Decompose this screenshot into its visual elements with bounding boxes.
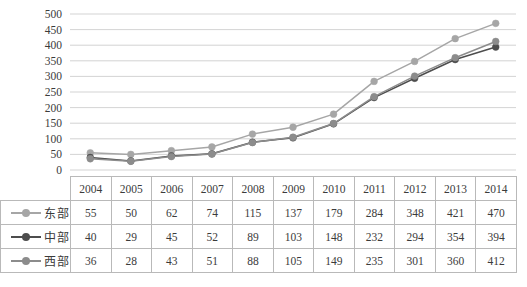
line-chart-plot-area: 500450400350300250200150100500 <box>0 0 527 180</box>
series-west <box>87 38 499 165</box>
data-point-marker <box>492 38 499 45</box>
data-point-marker <box>371 78 378 85</box>
legend-series-label: 中部 <box>44 228 70 245</box>
legend-series-marker-icon <box>11 256 41 266</box>
series-line <box>90 47 495 161</box>
chart-with-data-table: 500450400350300250200150100500 200420052… <box>0 0 527 287</box>
table-value-cell: 55 <box>71 201 112 225</box>
y-gridlines-group: 500450400350300250200150100500 <box>45 8 516 176</box>
table-value-cell: 394 <box>476 225 517 249</box>
table-value-cell: 29 <box>111 225 152 249</box>
table-value-cell: 235 <box>354 249 395 273</box>
table-value-cell: 421 <box>435 201 476 225</box>
table-value-cell: 294 <box>395 225 436 249</box>
table-value-cell: 284 <box>354 201 395 225</box>
y-axis-tick-label: 100 <box>45 133 63 145</box>
table-value-cell: 40 <box>71 225 112 249</box>
data-point-marker <box>371 93 378 100</box>
y-axis-tick-label: 150 <box>45 117 63 129</box>
table-header-spacer <box>1 177 71 201</box>
series-central <box>87 44 499 165</box>
legend-entry: 西部 <box>1 252 70 269</box>
chart-svg: 500450400350300250200150100500 <box>0 0 527 180</box>
table-year-header: 2014 <box>476 177 517 201</box>
table-row: 东部55506274115137179284348421470 <box>1 201 517 225</box>
table-value-cell: 88 <box>233 249 274 273</box>
chart-data-table: 2004200520062007200820092010201120122013… <box>0 176 517 273</box>
table-row: 西部3628435188105149235301360412 <box>1 249 517 273</box>
table-value-cell: 62 <box>152 201 193 225</box>
y-axis-tick-label: 250 <box>45 86 63 98</box>
data-point-marker <box>209 144 216 151</box>
legend-series-label: 东部 <box>44 204 70 221</box>
table-value-cell: 301 <box>395 249 436 273</box>
table-value-cell: 51 <box>192 249 233 273</box>
data-point-marker <box>87 155 94 162</box>
legend-series-marker-icon <box>11 232 41 242</box>
table-value-cell: 89 <box>233 225 274 249</box>
table-value-cell: 360 <box>435 249 476 273</box>
table-year-header: 2006 <box>152 177 193 201</box>
table-year-header: 2013 <box>435 177 476 201</box>
y-axis-tick-label: 350 <box>45 55 63 67</box>
data-point-marker <box>249 139 256 146</box>
legend-cell-central: 中部 <box>1 225 71 249</box>
y-axis-tick-label: 300 <box>45 70 63 82</box>
table-value-cell: 179 <box>314 201 355 225</box>
table-value-cell: 137 <box>273 201 314 225</box>
y-axis-tick-label: 50 <box>51 148 63 160</box>
data-point-marker <box>452 35 459 42</box>
table-value-cell: 50 <box>111 201 152 225</box>
table-year-header: 2010 <box>314 177 355 201</box>
table-value-cell: 348 <box>395 201 436 225</box>
data-point-marker <box>127 158 134 165</box>
data-point-marker <box>209 151 216 158</box>
y-axis-tick-label: 0 <box>56 164 62 176</box>
table-value-cell: 412 <box>476 249 517 273</box>
table-value-cell: 52 <box>192 225 233 249</box>
series-line <box>90 41 495 161</box>
table-value-cell: 105 <box>273 249 314 273</box>
table-year-header: 2007 <box>192 177 233 201</box>
y-axis-tick-label: 400 <box>45 39 63 51</box>
table-header-row: 2004200520062007200820092010201120122013… <box>1 177 517 201</box>
data-point-marker <box>492 20 499 27</box>
table-year-header: 2005 <box>111 177 152 201</box>
legend-series-marker-icon <box>11 208 41 218</box>
legend-dot-icon <box>22 257 30 265</box>
chart-data-table-container: 2004200520062007200820092010201120122013… <box>0 176 527 273</box>
table-value-cell: 115 <box>233 201 274 225</box>
table-year-header: 2011 <box>354 177 395 201</box>
table-value-cell: 232 <box>354 225 395 249</box>
legend-entry: 中部 <box>1 228 70 245</box>
data-point-marker <box>452 54 459 61</box>
data-point-marker <box>249 131 256 138</box>
legend-entry: 东部 <box>1 204 70 221</box>
legend-dot-icon <box>22 209 30 217</box>
data-point-marker <box>330 120 337 127</box>
data-point-marker <box>168 153 175 160</box>
table-year-header: 2012 <box>395 177 436 201</box>
table-body: 东部55506274115137179284348421470中部4029455… <box>1 201 517 273</box>
legend-series-label: 西部 <box>44 252 70 269</box>
table-value-cell: 149 <box>314 249 355 273</box>
data-point-marker <box>330 111 337 118</box>
table-value-cell: 470 <box>476 201 517 225</box>
y-axis-tick-label: 200 <box>45 102 63 114</box>
table-value-cell: 148 <box>314 225 355 249</box>
legend-cell-west: 西部 <box>1 249 71 273</box>
table-value-cell: 103 <box>273 225 314 249</box>
data-point-marker <box>411 58 418 65</box>
y-axis-tick-label: 450 <box>45 24 63 36</box>
table-value-cell: 74 <box>192 201 233 225</box>
data-point-marker <box>290 134 297 141</box>
y-axis-tick-label: 500 <box>45 8 63 20</box>
table-value-cell: 28 <box>111 249 152 273</box>
table-year-header: 2009 <box>273 177 314 201</box>
table-year-header: 2008 <box>233 177 274 201</box>
table-row: 中部4029455289103148232294354394 <box>1 225 517 249</box>
table-value-cell: 45 <box>152 225 193 249</box>
table-value-cell: 36 <box>71 249 112 273</box>
data-point-marker <box>411 73 418 80</box>
table-value-cell: 354 <box>435 225 476 249</box>
